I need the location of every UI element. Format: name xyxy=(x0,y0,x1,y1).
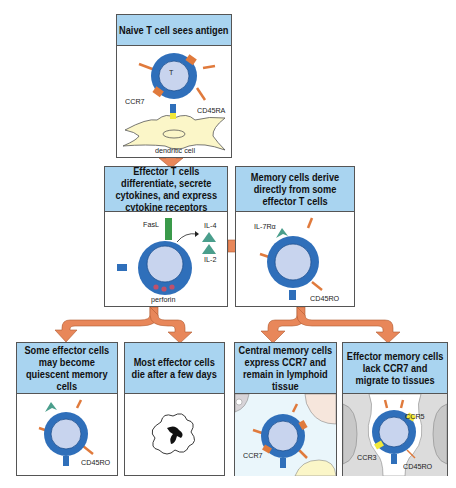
die-box: Most effector cells die after a few days xyxy=(124,342,225,476)
die-title: Most effector cells die after a few days xyxy=(125,343,224,393)
effector-box: Effector T cells differentiate, secrete … xyxy=(104,166,228,307)
il2-triangle-icon xyxy=(202,244,216,254)
dying-cell-illustration xyxy=(125,394,224,476)
ccr5-label: CCR5 xyxy=(405,412,425,421)
naive-title: Naive T cell sees antigen xyxy=(117,15,231,45)
t-label: T xyxy=(169,68,173,77)
central-memory-title: Central memory cells express CCR7 and re… xyxy=(235,343,336,393)
split-arrow-left-2-icon xyxy=(190,307,222,320)
lymphoid-tissue-illustration xyxy=(235,394,336,476)
il7ra-icon xyxy=(276,228,288,238)
dendritic-label: dendritic cell xyxy=(155,146,195,155)
ccr7-label-2: CCR7 xyxy=(243,451,263,460)
quiescent-box: Some effector cells may become quiescent… xyxy=(16,342,118,476)
effector-memory-title: Effector memory cells lack CCR7 and migr… xyxy=(343,343,447,393)
fasl-icon xyxy=(165,218,172,240)
effector-title: Effector T cells differentiate, secrete … xyxy=(105,167,227,211)
il7ra-label: IL-7Rα xyxy=(254,222,276,231)
il4-triangle-icon xyxy=(202,232,216,242)
cd45ro-label-2: CD45RO xyxy=(81,458,110,467)
cd45ra-label: CD45RA xyxy=(197,106,225,115)
perforin-label: perforin xyxy=(151,295,175,304)
il2-label: IL-2 xyxy=(204,255,216,264)
ccr7-label: CCR7 xyxy=(125,97,145,106)
split-arrow-left-icon xyxy=(55,307,158,342)
il4-label: IL-4 xyxy=(204,221,216,230)
naive-box: Naive T cell sees antigen T CCR7 CD45RA … xyxy=(116,14,232,158)
split-arrow-memory-right-icon xyxy=(297,307,400,343)
effector-memory-box: Effector memory cells lack CCR7 and migr… xyxy=(342,342,448,476)
memory-derive-title: Memory cells derive directly from some e… xyxy=(236,167,354,211)
fasl-label: FasL xyxy=(143,220,159,229)
ccr3-label: CCR3 xyxy=(357,453,377,462)
cd45ro-label-3: CD45RO xyxy=(403,462,432,471)
memory-derive-box: Memory cells derive directly from some e… xyxy=(235,166,355,307)
dendritic-cell-icon xyxy=(123,115,225,150)
quiescent-title: Some effector cells may become quiescent… xyxy=(17,343,117,393)
cd45ro-label: CD45RO xyxy=(310,294,339,303)
central-memory-box: Central memory cells express CCR7 and re… xyxy=(234,342,337,476)
